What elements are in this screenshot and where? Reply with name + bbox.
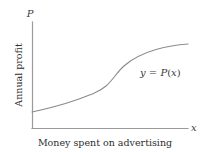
x-axis-label: Money spent on advertising xyxy=(38,137,172,148)
y-axis-symbol: P xyxy=(26,8,34,19)
profit-vs-advertising-figure: P x y = P(x) Annual profit Money spent o… xyxy=(0,0,202,152)
curve-label: y = P(x) xyxy=(139,67,181,78)
curve-label-paren-close: ) xyxy=(177,67,181,78)
x-axis-symbol: x xyxy=(191,122,197,133)
curve-label-equals: = xyxy=(146,67,161,78)
y-axis-label: Annual profit xyxy=(13,43,24,108)
profit-curve xyxy=(32,44,188,112)
chart-canvas: P x y = P(x) Annual profit Money spent o… xyxy=(0,0,202,152)
